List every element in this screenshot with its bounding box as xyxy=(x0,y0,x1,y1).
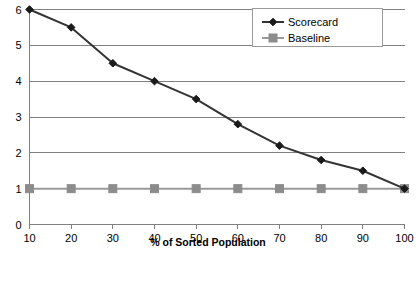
y-tick-label-5: 5 xyxy=(15,39,21,51)
y-tick-label-1: 1 xyxy=(15,183,21,195)
x-tick-label-10: 10 xyxy=(23,232,35,244)
datapoint-baseline-50 xyxy=(192,185,200,193)
y-tick-label-4: 4 xyxy=(15,75,21,87)
x-tick-label-80: 80 xyxy=(315,232,327,244)
lift-chart: 0123456 102030405060708090100 % of Sorte… xyxy=(0,0,417,284)
x-tick-label-90: 90 xyxy=(357,232,369,244)
x-tick-label-20: 20 xyxy=(65,232,77,244)
datapoint-baseline-40 xyxy=(151,185,159,193)
caption-sliver xyxy=(6,280,156,284)
datapoint-baseline-20 xyxy=(67,185,75,193)
y-tick-label-3: 3 xyxy=(15,111,21,123)
datapoint-baseline-60 xyxy=(234,185,242,193)
legend-marker-baseline xyxy=(269,34,277,42)
x-tick-label-30: 30 xyxy=(107,232,119,244)
legend-label-baseline: Baseline xyxy=(288,32,330,44)
datapoint-baseline-80 xyxy=(317,185,325,193)
x-axis-title: % of Sorted Population xyxy=(150,236,266,248)
x-tick-label-70: 70 xyxy=(273,232,285,244)
chart-canvas: 0123456 102030405060708090100 % of Sorte… xyxy=(0,0,417,284)
y-tick-label-6: 6 xyxy=(15,4,21,16)
datapoint-baseline-70 xyxy=(276,185,284,193)
datapoint-baseline-90 xyxy=(359,185,367,193)
datapoint-baseline-30 xyxy=(109,185,117,193)
y-tick-label-2: 2 xyxy=(15,147,21,159)
y-tick-label-0: 0 xyxy=(15,219,21,231)
datapoint-baseline-10 xyxy=(26,185,34,193)
chart-legend: ScorecardBaseline xyxy=(253,9,383,47)
legend-label-scorecard: Scorecard xyxy=(288,16,338,28)
x-tick-label-100: 100 xyxy=(395,232,413,244)
